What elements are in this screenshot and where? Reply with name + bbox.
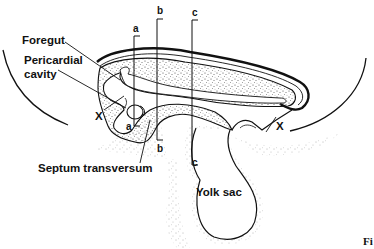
figure-caption-fragment: Fi: [363, 235, 373, 247]
right-outer-membrane: [290, 58, 366, 131]
marker-a-top: a: [133, 23, 139, 34]
marker-a-bottom: a: [126, 121, 132, 132]
label-foregut: Foregut: [22, 34, 65, 46]
right-mesoderm-stipple: [230, 132, 340, 155]
left-x-junction: [124, 98, 127, 108]
pericardial-leader: [58, 70, 126, 108]
x-right-leader: [266, 117, 276, 132]
pericardial-cavity: [127, 105, 143, 119]
label-yolk-sac: Yolk sac: [196, 186, 242, 198]
marker-b-top: b: [157, 5, 163, 16]
marker-c-top: c: [192, 7, 198, 18]
label-pericardial-line2: cavity: [24, 68, 57, 80]
label-x-left: X: [95, 110, 103, 122]
marker-c-bottom: c: [192, 157, 198, 168]
embryo-sagittal-section-diagram: Foregut Pericardial cavity X X Septum tr…: [0, 0, 374, 249]
label-septum-transversum: Septum transversum: [38, 162, 152, 174]
label-pericardial-line1: Pericardial: [24, 54, 83, 66]
right-x-fold-inner: [240, 125, 256, 128]
marker-b-bottom: b: [157, 143, 163, 154]
label-x-right: X: [276, 120, 284, 132]
